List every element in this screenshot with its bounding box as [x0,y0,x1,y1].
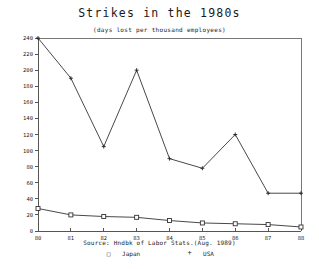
legend-item-usa: +USA [186,250,214,257]
data-point-japan [168,219,172,223]
legend-label: Japan [122,250,140,257]
y-axis-tick-label: 100 [23,148,33,154]
y-axis-tick-label: 20 [26,212,33,218]
plot-frame [38,38,301,231]
source-note: Source: Hndbk of Labor Stats.(Aug. 1989) [0,239,319,246]
square-marker-icon: □ [105,250,112,257]
data-point-japan [299,225,303,229]
y-axis-tick-label: 40 [26,196,33,202]
data-point-usa [299,191,303,195]
data-point-japan [102,215,106,219]
data-point-usa [266,191,270,195]
axes-group: 0204060801001201401601802002202408081828… [23,35,304,241]
data-point-japan [36,206,40,210]
y-axis-tick-label: 240 [23,35,33,41]
data-point-japan [233,222,237,226]
y-axis-tick-label: 140 [23,115,33,121]
data-point-japan [69,213,73,217]
data-point-japan [200,221,204,225]
plot-area: 0204060801001201401601802002202408081828… [0,0,319,269]
y-axis-tick-label: 0 [30,228,33,234]
y-axis-tick-label: 80 [26,164,33,170]
data-point-usa [102,145,106,149]
y-axis-tick-label: 200 [23,67,33,73]
legend-label: USA [203,250,214,257]
series-line-japan [38,208,301,226]
chart-container: Strikes in the 1980s (days lost per thou… [0,0,319,269]
chart-legend: □Japan+USA [0,250,319,257]
plus-marker-icon: + [186,250,193,257]
legend-item-japan: □Japan [105,250,140,257]
data-series-group [36,36,303,229]
y-axis-tick-label: 60 [26,180,33,186]
y-axis-tick-label: 220 [23,51,33,57]
data-point-usa [168,157,172,161]
series-line-usa [38,38,301,193]
y-axis-tick-label: 180 [23,83,33,89]
y-axis-tick-label: 160 [23,99,33,105]
data-point-usa [135,68,139,72]
data-point-japan [266,223,270,227]
data-point-japan [135,215,139,219]
y-axis-tick-label: 120 [23,132,33,138]
